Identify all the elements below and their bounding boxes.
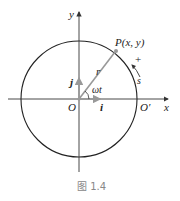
radius-label: r [96, 65, 101, 77]
angle-arc [85, 91, 89, 99]
unit-i-label: i [100, 101, 104, 113]
point-p [114, 49, 118, 53]
y-axis-label: y [68, 8, 74, 20]
x-axis-label: x [163, 101, 169, 113]
point-p-label: P(x, y) [114, 36, 145, 49]
unit-j-label: j [68, 76, 74, 88]
circular-motion-diagram: y x O O′ P(x, y) r ωt i j s + 图 1.4 [0, 0, 180, 201]
origin-dot [77, 97, 80, 100]
arc-length-label: s [137, 75, 141, 86]
figure-caption: 图 1.4 [77, 181, 106, 192]
direction-plus-label: + [135, 53, 141, 65]
angle-label: ωt [92, 84, 102, 95]
origin-label: O [68, 101, 76, 113]
o-prime-label: O′ [140, 101, 151, 113]
